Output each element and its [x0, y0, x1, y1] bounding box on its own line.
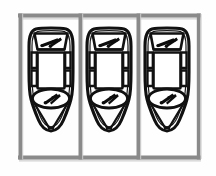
car-2[interactable] — [87, 28, 131, 131]
divider-1-highlight — [82, 14, 83, 159]
top-rail-shadow — [19, 17, 201, 19]
divider-1 — [79, 14, 83, 160]
car-1[interactable] — [29, 28, 73, 131]
parking-diagram — [0, 0, 216, 176]
divider-2 — [137, 14, 141, 160]
bottom-rail-shadow — [19, 159, 201, 161]
parking-scene — [0, 0, 216, 176]
divider-right-edge — [197, 14, 201, 160]
divider-right-edge-highlight — [200, 14, 201, 159]
top-rail — [18, 14, 201, 18]
car-3[interactable] — [145, 28, 189, 131]
divider-left-edge-highlight — [22, 14, 23, 159]
bottom-rail — [18, 156, 201, 160]
divider-left-edge — [19, 14, 23, 160]
divider-2-highlight — [140, 14, 141, 159]
